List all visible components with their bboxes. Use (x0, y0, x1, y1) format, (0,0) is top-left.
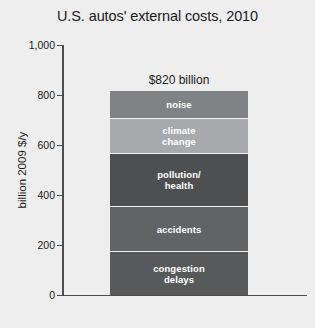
y-tick-label-1000: 1,000 (7, 40, 55, 50)
y-tick-mark-200 (57, 245, 62, 246)
bar-segment-noise[interactable]: noise (110, 91, 248, 118)
y-tick-mark-800 (57, 95, 62, 96)
y-tick-mark-400 (57, 195, 62, 196)
y-tick-mark-600 (57, 145, 62, 146)
bar-segment-congestion-delays[interactable]: congestion delays (110, 251, 248, 295)
y-tick-label-600: 600 (7, 140, 55, 150)
y-tick-mark-1000 (57, 45, 62, 46)
bar-segment-label-climate-change: climate change (162, 125, 196, 147)
bar-segment-climate-change[interactable]: climate change (110, 118, 248, 153)
y-tick-label-400: 400 (7, 190, 55, 200)
bar-segment-label-pollution-health: pollution/ health (157, 169, 201, 191)
y-tick-label-800: 800 (7, 90, 55, 100)
stacked-bar: noise climate change pollution/ health a… (110, 91, 248, 295)
y-tick-label-200: 200 (7, 240, 55, 250)
bar-segment-accidents[interactable]: accidents (110, 206, 248, 251)
y-tick-label-0: 0 (7, 290, 55, 300)
y-axis-line (62, 45, 64, 295)
page-title: U.S. autos' external costs, 2010 (0, 8, 315, 24)
bar-segment-pollution-health[interactable]: pollution/ health (110, 153, 248, 206)
chart-figure: U.S. autos' external costs, 2010 billion… (0, 0, 315, 328)
y-tick-mark-0 (57, 295, 62, 296)
total-value-annotation: $820 billion (110, 73, 248, 87)
bar-segment-label-congestion-delays: congestion delays (153, 263, 205, 285)
bar-segment-label-noise: noise (166, 99, 191, 110)
bar-segment-label-accidents: accidents (157, 224, 202, 235)
y-axis-label: billion 2009 $/y (14, 45, 30, 295)
